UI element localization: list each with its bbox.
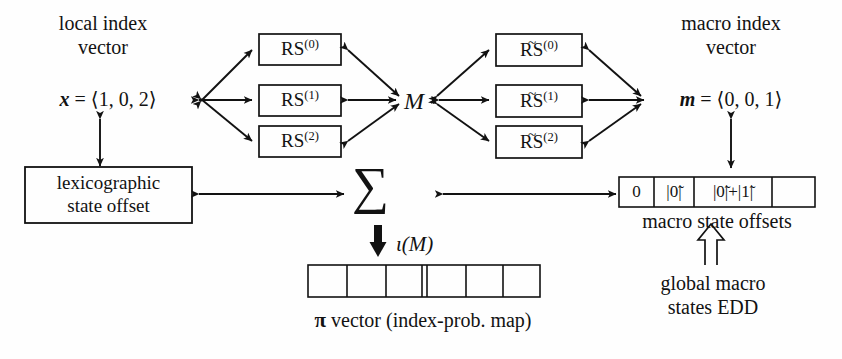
rs-tilde-box-2-superscript: (2) [543, 130, 558, 144]
rs-tilde-box-2[interactable]: ~RS(2) [496, 126, 582, 158]
rs-tilde-box-2-tilde-accent: ~ [519, 127, 544, 142]
pi-symbol: π [315, 308, 327, 332]
arrow-x-to-rs2 [201, 99, 252, 141]
edd-line1: global macro [628, 272, 798, 296]
arrow-x-to-rs0 [201, 50, 252, 101]
global-macro-states-edd-label: global macro states EDD [628, 272, 798, 319]
lexicographic-offset-line1: lexicographic [57, 172, 160, 195]
matrix-m-label: M [404, 87, 424, 115]
arrow-m-to-rstilde0 [437, 50, 489, 96]
macro-index-vector-value: m = ⟨0, 0, 1⟩ [645, 88, 817, 112]
arrow-rstilde2-to-m [589, 104, 641, 141]
pi-cell-5 [503, 265, 540, 297]
macro-offset-cell-2: |0̃|+|1̃| [694, 177, 772, 207]
arrow-sigma-to-pi [370, 225, 387, 257]
macro-index-heading-line1: macro index [645, 12, 817, 36]
local-index-vector-heading: local index vector [20, 12, 186, 59]
pi-caption-text: vector (index-prob. map) [331, 309, 531, 331]
arrow-rs2-to-m [348, 104, 399, 141]
vector-m-symbol: m [680, 88, 696, 110]
macro-offsets-cells[interactable]: 0 |0̃| |0̃|+|1̃| [619, 177, 815, 207]
vector-x-tuple: ⟨1, 0, 2⟩ [91, 88, 157, 110]
local-index-heading-line2: vector [20, 36, 186, 60]
rs-box-0-superscript: (0) [304, 37, 319, 51]
vector-m-equals: = [700, 88, 711, 110]
vector-x-symbol: x [60, 88, 70, 110]
lexicographic-offset-box[interactable]: lexicographic state offset [25, 167, 192, 223]
macro-state-offsets-caption: macro state offsets [617, 210, 817, 234]
local-index-heading-line1: local index [20, 12, 186, 36]
figure-root: local index vector x = ⟨1, 0, 2⟩ RS(0) R… [0, 0, 842, 359]
macro-offset-cell-1: |0̃| [654, 177, 694, 207]
rs-tilde-box-1[interactable]: ~RS(1) [496, 85, 582, 117]
arrow-rs0-to-m [348, 50, 399, 96]
rs-box-1-base: RS [281, 90, 304, 111]
lexicographic-offset-line2: state offset [67, 195, 150, 218]
rs-tilde-box-1-superscript: (1) [543, 89, 558, 103]
rs-box-1-superscript: (1) [304, 88, 319, 102]
rs-tilde-box-0-superscript: (0) [543, 38, 558, 52]
pi-vector-caption: π vector (index-prob. map) [258, 308, 588, 333]
arrow-m-to-rstilde2 [437, 104, 489, 141]
rs-box-2[interactable]: RS(2) [259, 126, 341, 157]
rs-tilde-box-0-tilde-accent: ~ [519, 35, 544, 50]
edd-line2: states EDD [628, 296, 798, 320]
pi-cell-3 [427, 265, 466, 297]
rs-box-2-superscript: (2) [304, 129, 319, 143]
summation-symbol: ∑ [352, 160, 389, 212]
iota-label: ι(M) [396, 232, 433, 257]
local-index-vector-value: x = ⟨1, 0, 2⟩ [22, 88, 194, 112]
rs-box-2-base: RS [281, 131, 304, 152]
vector-x-equals: = [75, 88, 86, 110]
macro-index-heading-line2: vector [645, 36, 817, 60]
vector-m-tuple: ⟨0, 0, 1⟩ [717, 88, 783, 110]
pi-cell-0 [308, 265, 347, 297]
rs-box-1[interactable]: RS(1) [259, 85, 341, 116]
rs-box-0-base: RS [281, 39, 304, 60]
pi-vector-cells[interactable] [308, 265, 540, 297]
rs-box-0[interactable]: RS(0) [259, 34, 341, 65]
macro-offset-cell-0: 0 [619, 177, 654, 207]
pi-cell-1 [347, 265, 386, 297]
pi-cell-2 [386, 265, 427, 297]
pi-cell-4 [466, 265, 503, 297]
rs-tilde-box-0[interactable]: ~RS(0) [496, 34, 582, 66]
arrow-rstilde0-to-m [589, 50, 641, 96]
rs-tilde-box-1-tilde-accent: ~ [519, 86, 544, 101]
macro-index-vector-heading: macro index vector [645, 12, 817, 59]
macro-offset-cell-3 [772, 177, 815, 207]
